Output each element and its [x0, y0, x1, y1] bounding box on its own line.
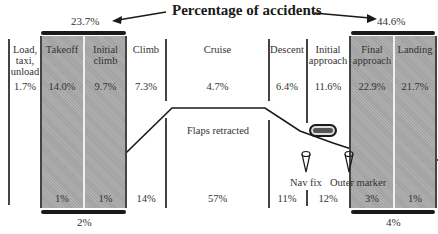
exposure-pct-landing: 1% [395, 193, 435, 204]
phase-label-descent: Descent [268, 44, 306, 55]
accident-pct-initial-climb: 9.7% [85, 81, 126, 92]
takeoff-group-exposure-pct: 2% [77, 216, 92, 228]
phase-label-cruise: Cruise [167, 44, 268, 55]
phase-label-load-taxi-unload: Load, taxi, unload [9, 44, 41, 77]
phase-label-climb: Climb [127, 44, 165, 55]
shaded-column-takeoff [41, 36, 83, 208]
takeoff-group-brace-bottom [41, 210, 126, 214]
phase-label-initial-climb: Initial climb [85, 44, 126, 66]
phase-label-takeoff: Takeoff [41, 44, 83, 55]
outer-marker-label: Outer marker [330, 177, 386, 188]
holding-pattern-icon [309, 124, 337, 137]
phase-label-landing: Landing [395, 44, 435, 55]
exposure-pct-final-approach: 3% [351, 193, 393, 204]
accident-pct-final-approach: 22.9% [351, 81, 393, 92]
exposure-pct-cruise: 57% [167, 193, 268, 204]
exposure-pct-descent: 11% [268, 193, 306, 204]
exposure-pct-initial-climb: 1% [85, 193, 126, 204]
landing-group-exposure-pct: 4% [386, 216, 401, 228]
phase-label-initial-approach: Initial approach [307, 44, 349, 66]
accident-pct-descent: 6.4% [268, 81, 306, 92]
nav-fix-label: Nav fix [290, 177, 322, 188]
landing-group-brace-top [351, 31, 435, 35]
phase-label-final-approach: Final approach [351, 44, 393, 66]
landing-group-brace-bottom [351, 210, 435, 214]
shaded-column-landing [395, 36, 435, 208]
landing-group-accident-pct: 44.6% [377, 15, 405, 27]
accident-pct-initial-approach: 11.6% [307, 81, 349, 92]
accident-pct-climb: 7.3% [127, 81, 165, 92]
exposure-pct-climb: 14% [127, 193, 165, 204]
accident-pct-load-taxi-unload: 1.7% [9, 81, 41, 92]
exposure-pct-initial-approach: 12% [307, 193, 349, 204]
accident-pct-cruise: 4.7% [167, 81, 268, 92]
flaps-retracted-label: Flaps retracted [187, 125, 249, 136]
takeoff-group-brace-top [41, 31, 126, 35]
accident-pct-landing: 21.7% [395, 81, 435, 92]
divider [435, 36, 437, 208]
accident-pct-takeoff: 14.0% [41, 81, 83, 92]
divider [393, 36, 395, 208]
exposure-pct-takeoff: 1% [41, 193, 83, 204]
takeoff-group-accident-pct: 23.7% [71, 15, 99, 27]
